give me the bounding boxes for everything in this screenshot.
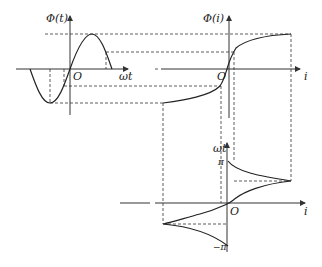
label-i-bottom: i [304,205,308,218]
label-omega-t-bottom: ωt [213,142,227,155]
label-flux-i: Φ(i) [203,12,224,25]
label-omega-t: ωt [119,70,133,83]
label-i-top: i [304,70,308,83]
panel-time-current: ωt π −π O i [120,142,308,252]
label-origin-2: O [217,70,226,83]
diagram-canvas: Φ(t) O ωt Φ(i) O i ωt π −π O i [0,0,322,267]
panel-flux-time: Φ(t) O ωt [16,12,133,115]
label-minus-pi: −π [213,242,228,252]
label-origin-3: O [230,205,239,218]
label-flux-t: Φ(t) [46,12,68,25]
label-origin-1: O [73,70,82,83]
label-pi: π [217,157,225,167]
